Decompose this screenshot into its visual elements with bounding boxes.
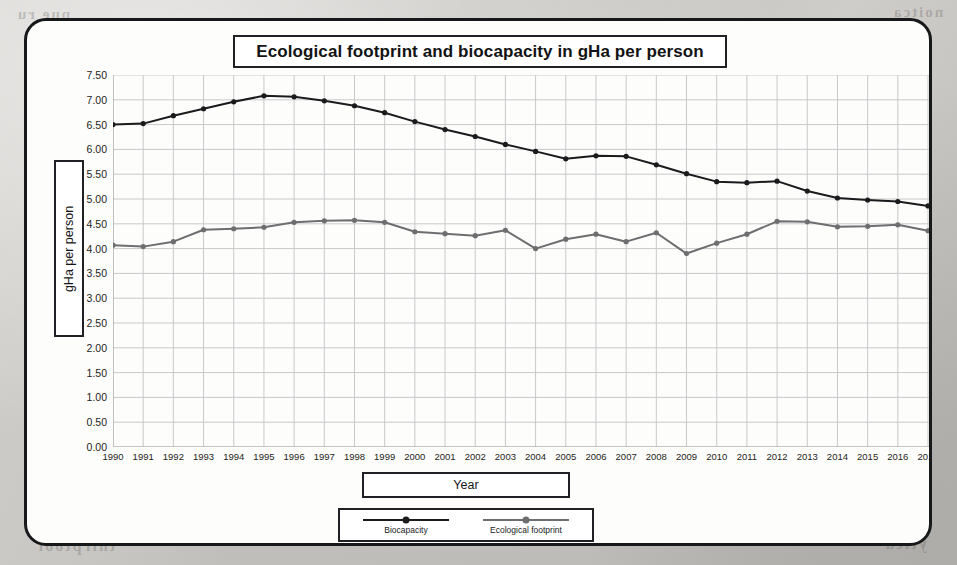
y-axis-tick-labels: 0.000.501.001.502.002.503.003.504.004.50…: [61, 75, 107, 447]
data-point-marker: [835, 195, 840, 200]
chart-title-box: Ecological footprint and biocapacity in …: [233, 35, 727, 68]
data-point-marker: [261, 225, 266, 230]
x-axis-tick-label: 2016: [887, 451, 908, 462]
x-axis-tick-label: 1991: [133, 451, 154, 462]
data-point-marker: [231, 99, 236, 104]
data-point-marker: [654, 230, 659, 235]
y-axis-tick-label: 1.00: [67, 391, 107, 403]
data-point-marker: [925, 203, 929, 208]
vertical-gridlines: [113, 75, 928, 447]
data-point-marker: [684, 171, 689, 176]
x-axis-tick-label: 2007: [616, 451, 637, 462]
y-axis-tick-label: 5.00: [67, 193, 107, 205]
x-axis-tick-label: 1996: [284, 451, 305, 462]
x-axis-tick-labels: 1990199119921993199419951996199719981999…: [113, 451, 929, 469]
data-point-marker: [113, 122, 116, 127]
x-axis-tick-label: 2013: [797, 451, 818, 462]
x-axis-title-box: Year: [362, 472, 570, 498]
data-point-marker: [473, 233, 478, 238]
data-point-marker: [292, 94, 297, 99]
data-point-marker: [261, 93, 266, 98]
plot-svg: [113, 75, 929, 447]
x-axis-tick-label: 2001: [434, 451, 455, 462]
y-axis-tick-label: 3.50: [67, 267, 107, 279]
legend-marker-icon: [523, 516, 530, 523]
data-point-marker: [113, 243, 116, 248]
x-axis-title: Year: [453, 478, 478, 492]
data-point-marker: [805, 188, 810, 193]
data-point-marker: [141, 121, 146, 126]
data-point-marker: [835, 224, 840, 229]
data-point-marker: [593, 232, 598, 237]
data-point-marker: [865, 197, 870, 202]
data-point-marker: [412, 229, 417, 234]
data-point-marker: [412, 119, 417, 124]
data-point-marker: [201, 227, 206, 232]
data-point-marker: [171, 239, 176, 244]
x-axis-tick-label: 2000: [404, 451, 425, 462]
data-point-marker: [352, 103, 357, 108]
y-axis-tick-label: 6.50: [67, 119, 107, 131]
data-point-marker: [624, 239, 629, 244]
x-axis-tick-label: 2015: [857, 451, 878, 462]
data-point-marker: [352, 218, 357, 223]
data-point-marker: [442, 231, 447, 236]
x-axis-tick-label: 1998: [344, 451, 365, 462]
data-point-marker: [141, 244, 146, 249]
data-point-marker: [563, 237, 568, 242]
x-axis-tick-label: 2002: [465, 451, 486, 462]
y-axis-tick-label: 4.50: [67, 218, 107, 230]
data-point-marker: [714, 241, 719, 246]
legend-item[interactable]: Biocapacity: [363, 515, 449, 535]
x-axis-tick-label: 2008: [646, 451, 667, 462]
data-point-marker: [593, 153, 598, 158]
x-axis-tick-label: 2006: [585, 451, 606, 462]
x-axis-tick-label: 1993: [193, 451, 214, 462]
data-point-marker: [744, 232, 749, 237]
y-axis-tick-label: 4.00: [67, 243, 107, 255]
x-axis-tick-label: 2005: [555, 451, 576, 462]
data-point-marker: [895, 199, 900, 204]
horizontal-gridlines: [113, 75, 929, 447]
legend-swatch: [483, 515, 569, 524]
data-point-marker: [895, 222, 900, 227]
x-axis-tick-label: 2011: [737, 451, 757, 462]
x-axis-tick-label: 2004: [525, 451, 546, 462]
data-point-marker: [624, 154, 629, 159]
x-axis-tick-label: 2003: [495, 451, 516, 462]
data-point-marker: [442, 127, 447, 132]
x-axis-tick-label: 2009: [676, 451, 697, 462]
data-point-marker: [231, 226, 236, 231]
chart-legend: BiocapacityEcological footprint: [338, 508, 594, 542]
data-point-marker: [322, 218, 327, 223]
data-point-marker: [684, 251, 689, 256]
y-axis-tick-label: 2.00: [67, 342, 107, 354]
legend-label: Ecological footprint: [490, 525, 562, 535]
data-point-marker: [503, 228, 508, 233]
x-axis-tick-label: 1997: [314, 451, 335, 462]
x-axis-tick-label: 1999: [374, 451, 395, 462]
y-axis-tick-label: 5.50: [67, 168, 107, 180]
data-point-marker: [774, 179, 779, 184]
legend-item[interactable]: Ecological footprint: [483, 515, 569, 535]
y-axis-tick-label: 2.50: [67, 317, 107, 329]
data-point-marker: [292, 220, 297, 225]
legend-label: Biocapacity: [384, 525, 427, 535]
chart-card: Ecological footprint and biocapacity in …: [24, 18, 932, 546]
axis-lines: [113, 75, 929, 447]
x-axis-tick-label: 2014: [827, 451, 848, 462]
x-axis-tick-label: 2017: [917, 451, 932, 462]
data-point-marker: [533, 246, 538, 251]
x-axis-tick-label: 2012: [766, 451, 787, 462]
data-point-marker: [473, 134, 478, 139]
data-point-marker: [563, 156, 568, 161]
data-point-marker: [654, 162, 659, 167]
y-axis-tick-label: 0.00: [67, 441, 107, 453]
data-point-marker: [382, 110, 387, 115]
data-point-marker: [714, 179, 719, 184]
y-axis-tick-label: 7.50: [67, 69, 107, 81]
data-point-marker: [925, 228, 929, 233]
data-point-marker: [382, 220, 387, 225]
y-axis-tick-label: 1.50: [67, 367, 107, 379]
data-point-marker: [171, 113, 176, 118]
